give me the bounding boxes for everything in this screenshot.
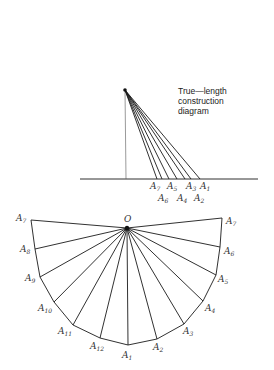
true-length-diagram: A7A6A5A4A3A2A1 True—length construction … <box>0 0 274 370</box>
radial-line-a7 <box>31 220 127 228</box>
radial-line-a7 <box>127 218 222 228</box>
radial-line-a8 <box>35 228 127 249</box>
radial-line-a5 <box>127 228 216 275</box>
radial-line-a6 <box>127 228 220 247</box>
label-a1: A1 <box>199 181 210 192</box>
pattern-label-a7-right: A7 <box>225 216 237 227</box>
apex-point <box>123 88 127 92</box>
radial-line-a10 <box>54 228 127 302</box>
pattern-label-a10: A10 <box>37 303 52 314</box>
caption-line-2: construction <box>178 96 224 106</box>
caption-line-3: diagram <box>178 106 209 116</box>
pattern-label-a11: A11 <box>57 326 72 337</box>
caption-line-1: True—length <box>178 86 227 96</box>
pattern-label-a12: A12 <box>89 341 104 352</box>
pattern-label-a1: A1 <box>121 350 132 361</box>
pattern-label-a4: A4 <box>204 303 216 314</box>
true-length-line-a6 <box>125 90 162 179</box>
radial-line-a11 <box>73 228 127 325</box>
pattern-label-a9: A9 <box>24 273 36 284</box>
radial-line-a2 <box>127 228 157 339</box>
label-a4: A4 <box>176 193 188 204</box>
radial-line-a12 <box>100 228 127 338</box>
label-a3: A3 <box>185 181 197 192</box>
origin-label: O <box>124 214 132 224</box>
true-length-line-a7 <box>125 90 157 179</box>
pattern-label-a7: A7 <box>15 213 27 224</box>
diagram-caption: True—length construction diagram <box>178 86 227 116</box>
radial-line-a4 <box>127 228 203 301</box>
pattern-label-a2: A2 <box>152 342 164 353</box>
label-a2: A2 <box>193 193 205 204</box>
label-a5: A5 <box>166 181 178 192</box>
label-a6: A6 <box>157 193 169 204</box>
true-length-line-a4 <box>125 90 177 179</box>
developed-pattern: A7A8A9A10A11A12A1A2A3A4A5A6A7O <box>15 213 237 361</box>
pattern-label-a3: A3 <box>182 326 194 337</box>
pattern-label-a8: A8 <box>19 244 31 255</box>
pattern-label-a5: A5 <box>217 274 229 285</box>
vertical-height-line <box>125 90 126 179</box>
construction-diagram: A7A6A5A4A3A2A1 <box>80 88 258 204</box>
radial-line-a1 <box>127 228 128 345</box>
pattern-label-a6: A6 <box>223 246 235 257</box>
label-a7: A7 <box>149 181 161 192</box>
radial-line-a9 <box>40 228 127 277</box>
origin-point <box>125 226 129 230</box>
true-length-line-a3 <box>125 90 185 179</box>
radial-line-a3 <box>127 228 184 324</box>
